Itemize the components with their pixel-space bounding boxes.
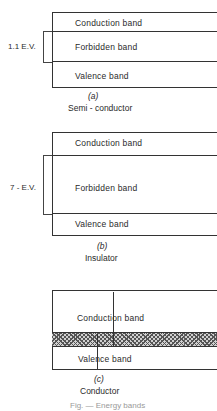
panel-label-b: (b) bbox=[97, 241, 107, 251]
valence-band-label-b: Valence band bbox=[75, 219, 129, 229]
conduction-forbidden-boundary-a bbox=[52, 31, 217, 32]
overlap-tick bbox=[184, 334, 185, 346]
conduction-forbidden-boundary-b bbox=[52, 155, 217, 156]
panel-title-c: Conductor bbox=[80, 386, 119, 396]
panel-label-c: (c) bbox=[94, 374, 104, 384]
valence-band-arrow bbox=[97, 334, 98, 370]
panel-title-a: Semi - conductor bbox=[68, 103, 132, 113]
conduction-band-label-c: Conduction band bbox=[77, 313, 144, 323]
overlap-region-hatched bbox=[52, 332, 217, 347]
panel-title-b: Insulator bbox=[85, 253, 118, 263]
energy-gap-label-b: 7 - E.V. bbox=[10, 183, 36, 192]
energy-gap-bracket-a bbox=[43, 31, 52, 63]
conduction-band-arrow bbox=[113, 292, 114, 346]
conduction-band-label-b: Conduction band bbox=[75, 138, 142, 148]
forbidden-valence-boundary-b bbox=[52, 213, 217, 214]
energy-gap-bracket-b bbox=[43, 155, 52, 215]
band-diagram-c bbox=[52, 290, 217, 370]
panel-label-a: (a) bbox=[88, 91, 98, 101]
valence-band-label-a: Valence band bbox=[75, 71, 129, 81]
conduction-band-label-a: Conduction band bbox=[75, 18, 142, 28]
energy-gap-label-a: 1.1 E.V. bbox=[8, 42, 36, 51]
forbidden-valence-boundary-a bbox=[52, 61, 217, 62]
forbidden-band-label-b: Forbidden band bbox=[75, 183, 137, 193]
valence-band-label-c: Valence band bbox=[78, 354, 132, 364]
forbidden-band-label-a: Forbidden band bbox=[75, 42, 137, 52]
figure-caption: Fig. — Energy bands bbox=[70, 401, 145, 410]
